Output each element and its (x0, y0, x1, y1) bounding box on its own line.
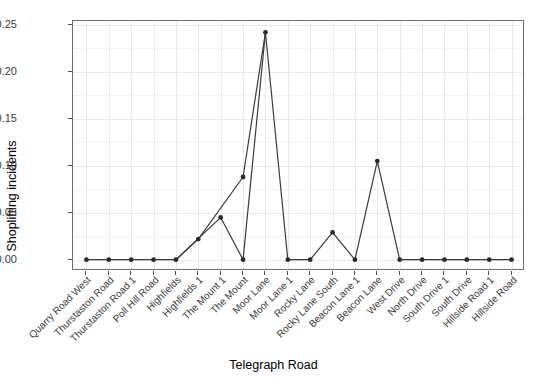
line-series (73, 21, 524, 270)
data-point (174, 257, 179, 262)
data-point (84, 257, 89, 262)
data-point (308, 257, 313, 262)
data-point (375, 159, 380, 164)
data-point (241, 175, 246, 180)
data-point (353, 257, 358, 262)
y-axis-tick-label: 0.20 (0, 65, 17, 77)
data-point (330, 230, 335, 235)
data-point (263, 30, 268, 35)
data-point (218, 215, 223, 220)
y-axis-title: Shoplifting incidents (0, 0, 24, 392)
y-axis-tick-label: 0.15 (0, 112, 17, 124)
plot-panel (72, 20, 524, 270)
series-line-main (86, 32, 511, 259)
data-point (397, 257, 402, 262)
data-point (151, 257, 156, 262)
y-axis-tick-label: 0.05 (0, 206, 17, 218)
data-point (420, 257, 425, 262)
y-axis-tick-label: 0.25 (0, 18, 17, 30)
series-line-branch (176, 32, 266, 259)
y-axis-tick-label: 0.00 (0, 253, 17, 265)
data-point (487, 257, 492, 262)
data-point (509, 257, 514, 262)
data-point (196, 237, 201, 242)
data-point (241, 257, 246, 262)
x-axis-title: Telegraph Road (0, 358, 547, 372)
y-axis-tick-label: 0.10 (0, 159, 17, 171)
data-point (106, 257, 111, 262)
data-point (442, 257, 447, 262)
chart-figure: Shoplifting incidents Telegraph Road 0.0… (0, 0, 547, 392)
data-point (285, 257, 290, 262)
data-point (464, 257, 469, 262)
data-point (129, 257, 134, 262)
